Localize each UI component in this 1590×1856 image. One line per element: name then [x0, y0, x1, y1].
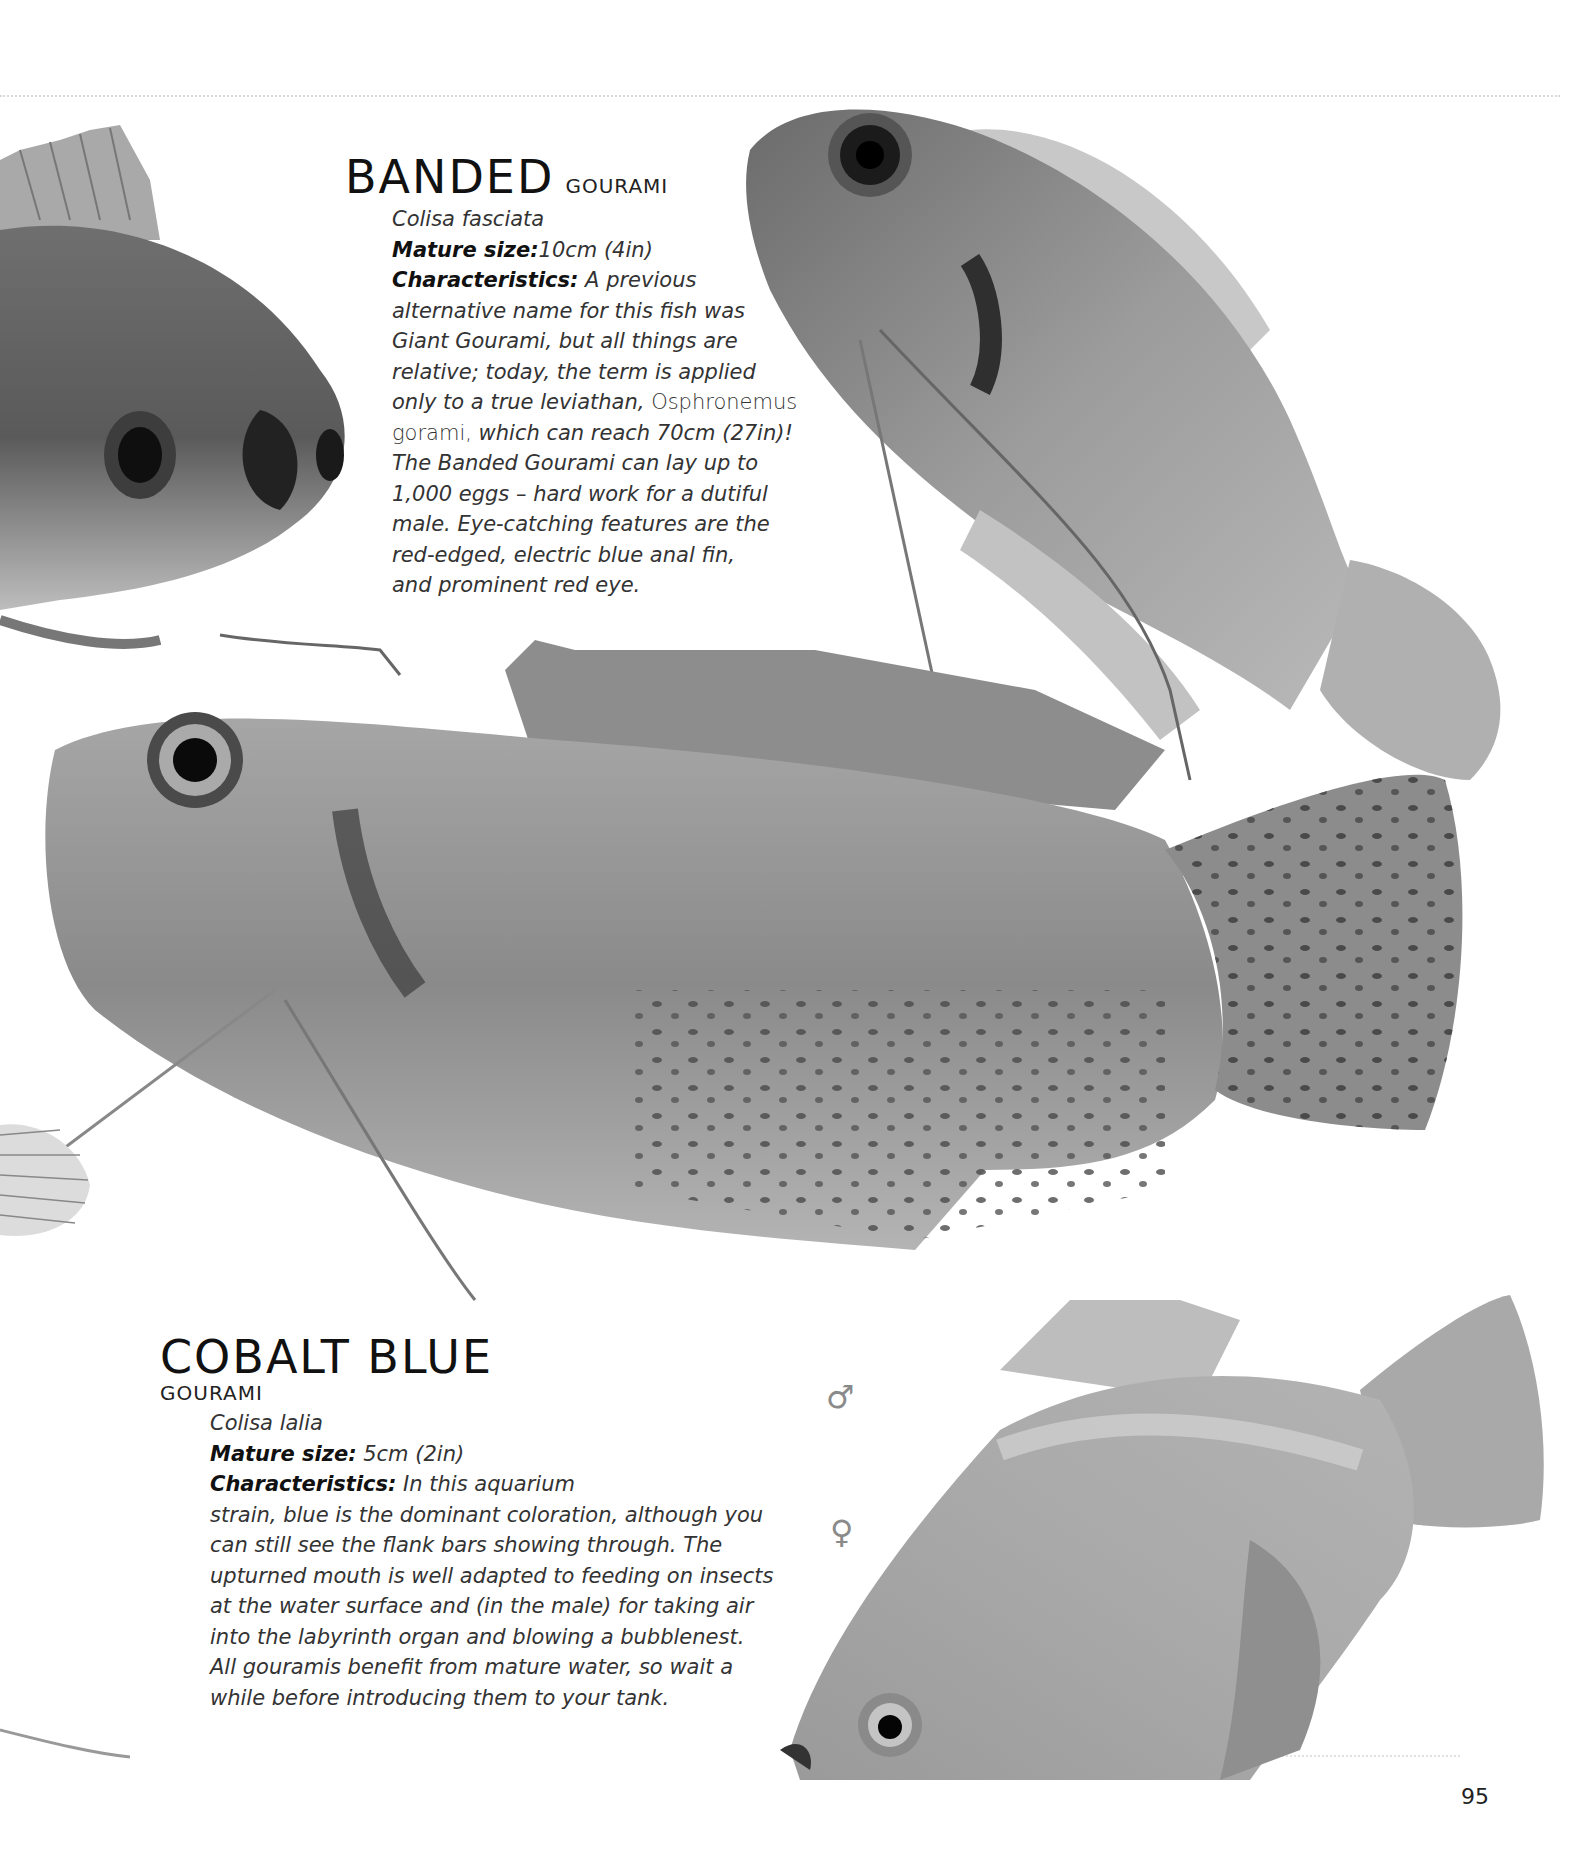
characteristics-text: Giant Gourami, but all things are	[392, 326, 812, 357]
cobalt-blue-gourami-title: COBALT BLUE	[160, 1333, 493, 1381]
mature-size-line: Mature size: 5cm (2in)	[210, 1439, 810, 1470]
characteristics-text-fragment: which can reach 70cm (27in)!	[472, 421, 793, 445]
fish-photo-center-large	[35, 630, 1475, 1300]
characteristics-text: can still see the flank bars showing thr…	[210, 1530, 810, 1561]
banded-gourami-subtitle: GOURAMI	[565, 174, 668, 198]
characteristics-text: and prominent red eye.	[392, 570, 812, 601]
characteristics-text: All gouramis benefit from mature water, …	[210, 1652, 810, 1683]
cobalt-blue-gourami-heading: COBALT BLUE GOURAMI	[160, 1333, 493, 1405]
characteristics-text: at the water surface and (in the male) f…	[210, 1591, 810, 1622]
species-epithet: gorami,	[392, 421, 472, 445]
scientific-name: Colisa fasciata	[392, 204, 812, 235]
banded-gourami-title: BANDED	[345, 150, 554, 204]
mature-size-label: Mature size:	[392, 238, 539, 262]
characteristics-label: Characteristics:	[392, 268, 578, 292]
characteristics-text: into the labyrinth organ and blowing a b…	[210, 1622, 810, 1653]
characteristics-text: upturned mouth is well adapted to feedin…	[210, 1561, 810, 1592]
banded-gourami-description: Colisa fasciata Mature size:10cm (4in) C…	[392, 204, 812, 601]
fish-photo-left-head	[0, 120, 400, 680]
characteristics-text: relative; today, the term is applied	[392, 357, 812, 388]
characteristics-text: male. Eye-catching features are the	[392, 509, 812, 540]
characteristics-text: strain, blue is the dominant coloration,…	[210, 1500, 810, 1531]
mature-size-value: 10cm (4in)	[539, 238, 653, 262]
characteristics-text: In this aquarium	[396, 1472, 574, 1496]
cobalt-blue-gourami-description: Colisa lalia Mature size: 5cm (2in) Char…	[210, 1408, 810, 1713]
mature-size-value: 5cm (2in)	[357, 1442, 465, 1466]
banded-gourami-heading: BANDED GOURAMI	[345, 150, 668, 204]
characteristics-text: A previous	[578, 268, 696, 292]
characteristics-text-fragment: only to a true leviathan,	[392, 390, 651, 414]
book-page: BANDED GOURAMI Colisa fasciata Mature si…	[0, 0, 1590, 1856]
characteristics-text: red-edged, electric blue anal fin,	[392, 540, 812, 571]
scientific-name: Colisa lalia	[210, 1408, 810, 1439]
characteristics-text: only to a true leviathan, Osphronemus	[392, 387, 812, 418]
fish-photo-cobalt-blue	[780, 1280, 1590, 1780]
characteristics-line: Characteristics: In this aquarium	[210, 1469, 810, 1500]
fish-feeler-bottom-left	[0, 1725, 140, 1765]
characteristics-text: The Banded Gourami can lay up to	[392, 448, 812, 479]
cobalt-blue-gourami-subtitle: GOURAMI	[160, 1381, 493, 1405]
characteristics-text: while before introducing them to your ta…	[210, 1683, 810, 1714]
mature-size-label: Mature size:	[210, 1442, 357, 1466]
page-number: 95	[1461, 1784, 1489, 1809]
mature-size-line: Mature size:10cm (4in)	[392, 235, 812, 266]
characteristics-line: Characteristics: A previous	[392, 265, 812, 296]
female-symbol-icon: ♀	[830, 1513, 853, 1551]
male-symbol-icon: ♂	[826, 1378, 855, 1416]
fish-photo-left-tail-fragment	[0, 1125, 100, 1245]
characteristics-text: 1,000 eggs – hard work for a dutiful	[392, 479, 812, 510]
characteristics-text: gorami, which can reach 70cm (27in)!	[392, 418, 812, 449]
characteristics-label: Characteristics:	[210, 1472, 396, 1496]
characteristics-text: alternative name for this fish was	[392, 296, 812, 327]
genus-name: Osphronemus	[651, 390, 797, 414]
